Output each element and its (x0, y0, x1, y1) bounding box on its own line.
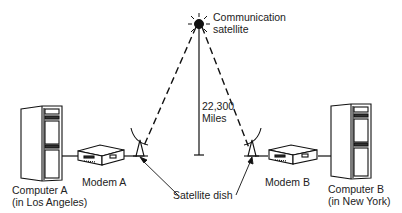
satellite-label: Communication satellite (213, 11, 286, 35)
modem-b-label: Modem B (265, 176, 310, 188)
computer-b-label: Computer B (in New York) (328, 183, 390, 207)
dish-label: Satellite dish (173, 189, 233, 201)
computer-a-icon (21, 106, 62, 181)
computer-b-icon (331, 104, 371, 179)
distance-label: 22,300 Miles (202, 100, 234, 124)
satellite-link-diagram (0, 0, 402, 213)
modem-a-label: Modem A (82, 176, 126, 188)
modem-a-icon (78, 145, 124, 165)
modem-b-icon (269, 145, 317, 164)
uplink-path-b (202, 27, 249, 148)
uplink-path-a (143, 27, 196, 148)
computer-a-label: Computer A (in Los Angeles) (12, 184, 87, 208)
